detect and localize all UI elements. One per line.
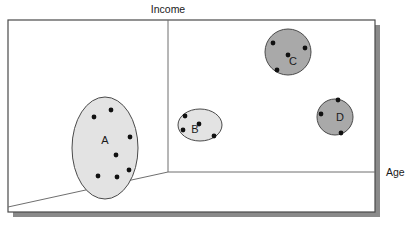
age-axis-label: Age <box>386 166 405 178</box>
data-point <box>275 68 280 73</box>
cluster-c[interactable]: C <box>265 29 311 75</box>
data-point <box>339 131 344 136</box>
data-point <box>92 115 97 120</box>
data-point <box>127 168 132 173</box>
data-point <box>271 41 276 46</box>
data-point <box>212 134 217 139</box>
data-point <box>115 175 120 180</box>
cluster-b[interactable]: B <box>178 109 222 141</box>
cluster-d-shape <box>317 99 353 135</box>
data-point <box>183 114 188 119</box>
cluster-c-shape <box>265 29 311 75</box>
cluster-a-label: A <box>101 134 109 146</box>
data-point <box>128 135 133 140</box>
cluster-d-label: D <box>336 111 344 123</box>
cluster-c-label: C <box>289 55 297 67</box>
data-point <box>336 98 341 103</box>
cluster-a[interactable]: A <box>72 97 138 199</box>
income-axis-label: Income <box>151 3 186 15</box>
cluster-a-shape <box>72 97 138 199</box>
data-point <box>181 128 186 133</box>
data-point <box>114 153 119 158</box>
cluster-diagram-canvas: A B C D Income Ag <box>0 0 415 229</box>
data-point <box>96 174 101 179</box>
data-point <box>109 108 114 113</box>
data-point <box>303 46 308 51</box>
data-point <box>319 112 324 117</box>
cluster-b-label: B <box>191 123 198 135</box>
cluster-diagram-container: A B C D Income Ag <box>0 0 415 229</box>
